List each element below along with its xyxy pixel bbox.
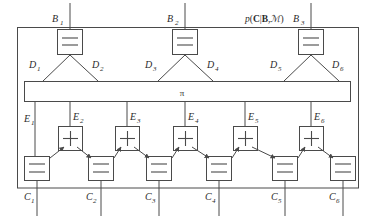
label-c6-letter: C (329, 191, 336, 202)
branch-d5 (284, 55, 311, 81)
label-d5-letter: D (269, 59, 278, 70)
label-d6-letter: D (331, 59, 340, 70)
probability-annotation: p(C|B,ℳ) (244, 13, 284, 25)
label-e3-letter: E (129, 111, 136, 122)
arrow-e3-to-c3 (134, 147, 149, 158)
label-d5-sub: 5 (278, 65, 282, 73)
label-c5-sub: 5 (278, 197, 282, 205)
label-d4-letter: D (206, 59, 215, 70)
permutation-node-pi (25, 82, 351, 102)
label-e2: E 2 (72, 111, 84, 125)
permutation-label-pi: π (180, 88, 185, 98)
equality-node-b1 (58, 30, 83, 55)
label-e6: E 6 (313, 111, 325, 125)
label-c2-letter: C (86, 191, 93, 202)
label-d3: D 3 (144, 59, 157, 73)
branch-d1 (43, 55, 70, 81)
equality-node-c5 (273, 157, 298, 181)
equality-node-b2 (173, 30, 198, 55)
label-d3-letter: D (144, 59, 153, 70)
label-e2-letter: E (72, 111, 79, 122)
label-d2: D 2 (91, 59, 104, 73)
label-e5-sub: 5 (255, 117, 259, 125)
label-e6-sub: 6 (321, 117, 325, 125)
equality-node-c4 (207, 157, 232, 181)
label-e3-sub: 3 (136, 117, 141, 125)
label-b2-letter: B (167, 13, 173, 24)
label-c5: C 5 (271, 191, 282, 205)
label-c1-letter: C (24, 191, 31, 202)
arrow-e2-to-c2 (77, 147, 91, 158)
label-e1-letter: E (23, 113, 30, 124)
label-d1-letter: D (28, 59, 37, 70)
label-d4: D 4 (206, 59, 219, 73)
arrow-e5-to-c5 (252, 147, 275, 158)
label-d4-sub: 4 (215, 65, 219, 73)
label-d6: D 6 (331, 59, 344, 73)
label-d2-letter: D (91, 59, 100, 70)
label-c4-sub: 4 (212, 197, 216, 205)
equality-node-b3 (299, 30, 324, 55)
label-b3-sub: 3 (300, 19, 305, 27)
label-b1-sub: 1 (60, 19, 64, 27)
label-e2-sub: 2 (80, 117, 84, 125)
label-c3-sub: 3 (151, 197, 156, 205)
label-c2: C 2 (86, 191, 97, 205)
label-d1: D 1 (28, 59, 41, 73)
arrow-e4-to-c4 (192, 147, 209, 158)
factor-graph-diagram: B 1 B 2 B 3 D 1 D 2 D 3 D 4 D 5 D 6 π E … (0, 0, 376, 221)
label-c4-letter: C (205, 191, 212, 202)
label-e5-letter: E (247, 111, 254, 122)
label-c4: C 4 (205, 191, 216, 205)
label-d6-sub: 6 (340, 65, 344, 73)
label-c3-letter: C (145, 191, 152, 202)
equality-node-c3 (147, 157, 172, 181)
branch-d3 (158, 55, 185, 81)
label-c1: C 1 (24, 191, 35, 205)
label-b3-letter: B (293, 13, 299, 24)
label-c1-sub: 1 (31, 197, 35, 205)
label-e5: E 5 (247, 111, 259, 125)
label-e3: E 3 (129, 111, 141, 125)
label-d3-sub: 3 (152, 65, 157, 73)
arrow-c1-to-e2 (50, 147, 64, 158)
annotation-close: ) (280, 14, 283, 25)
label-c6-sub: 6 (336, 197, 340, 205)
label-e6-letter: E (313, 111, 320, 122)
label-d2-sub: 2 (100, 65, 104, 73)
label-e1: E 1 (23, 113, 35, 127)
label-d1-sub: 1 (37, 65, 41, 73)
label-c5-letter: C (271, 191, 278, 202)
equality-node-c6 (331, 157, 356, 181)
label-b3: B 3 (293, 13, 305, 27)
label-b2: B 2 (167, 13, 179, 27)
label-b2-sub: 2 (175, 19, 179, 27)
label-c6: C 6 (329, 191, 340, 205)
diagram-canvas: B 1 B 2 B 3 D 1 D 2 D 3 D 4 D 5 D 6 π E … (0, 0, 376, 221)
equality-node-c2 (89, 157, 114, 181)
label-b1: B 1 (52, 13, 64, 27)
arrow-e6-to-c6 (318, 147, 333, 158)
equality-node-c1 (25, 157, 50, 181)
label-e1-sub: 1 (31, 119, 35, 127)
label-d5: D 5 (269, 59, 282, 73)
label-c2-sub: 2 (93, 197, 97, 205)
label-c3: C 3 (145, 191, 156, 205)
label-e4: E 4 (187, 111, 199, 125)
label-e4-letter: E (187, 111, 194, 122)
label-e4-sub: 4 (195, 117, 199, 125)
label-b1-letter: B (52, 13, 58, 24)
